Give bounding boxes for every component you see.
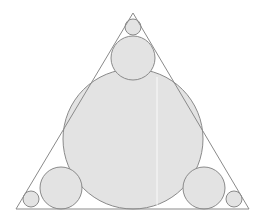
circle-bottom-left [40, 167, 82, 209]
incircle-large [63, 69, 203, 209]
circle-packing-figure: Circle packing inscribed in an isosceles… [0, 0, 262, 220]
circle-upper-middle [111, 36, 155, 80]
circle-bottom-right [183, 167, 225, 209]
circle-apex-small [125, 19, 141, 35]
figure-root: Circle packing inscribed in an isosceles… [0, 0, 262, 220]
